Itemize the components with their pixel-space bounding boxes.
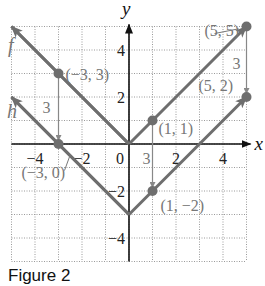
curve-label-f: f <box>8 34 16 57</box>
curve-f-left-arrow <box>12 27 130 145</box>
x-tick-label: 0 <box>116 150 124 167</box>
graph-canvas: xy −4−202442−2−4 333 fh (−3, 3)(−3, 0)(1… <box>0 0 265 270</box>
shift-amount-label: 3 <box>233 55 241 72</box>
point-label: (−3, 0) <box>22 164 66 182</box>
point-label: (1, −2) <box>161 197 205 215</box>
y-tick-label: 2 <box>117 89 125 106</box>
y-tick-label: 4 <box>117 42 125 59</box>
x-axis-label: x <box>254 133 264 154</box>
x-tick-label: −2 <box>73 150 90 167</box>
data-point <box>54 69 64 79</box>
figure-caption: Figure 2 <box>8 266 70 286</box>
data-point <box>242 22 252 32</box>
axes: xy <box>12 0 264 262</box>
y-axis-label: y <box>120 0 131 19</box>
data-point <box>148 116 158 126</box>
point-label: (5, 2) <box>199 77 234 95</box>
data-point <box>148 186 158 196</box>
data-point <box>242 92 252 102</box>
point-label: (−3, 3) <box>66 66 110 84</box>
x-tick-label: 4 <box>219 150 227 167</box>
curve-label-h: h <box>7 100 17 122</box>
data-point <box>54 139 64 149</box>
shift-amount-label: 3 <box>43 99 51 116</box>
point-label: (5, 5) <box>205 22 240 40</box>
y-tick-label: −4 <box>108 230 125 247</box>
label-leader-line <box>65 154 71 170</box>
shift-amount-label: 3 <box>143 150 151 167</box>
point-label: (1, 1) <box>159 120 194 138</box>
point-labels: (−3, 3)(−3, 0)(1, 1)(1, −2)(5, 5)(5, 2) <box>22 22 240 216</box>
